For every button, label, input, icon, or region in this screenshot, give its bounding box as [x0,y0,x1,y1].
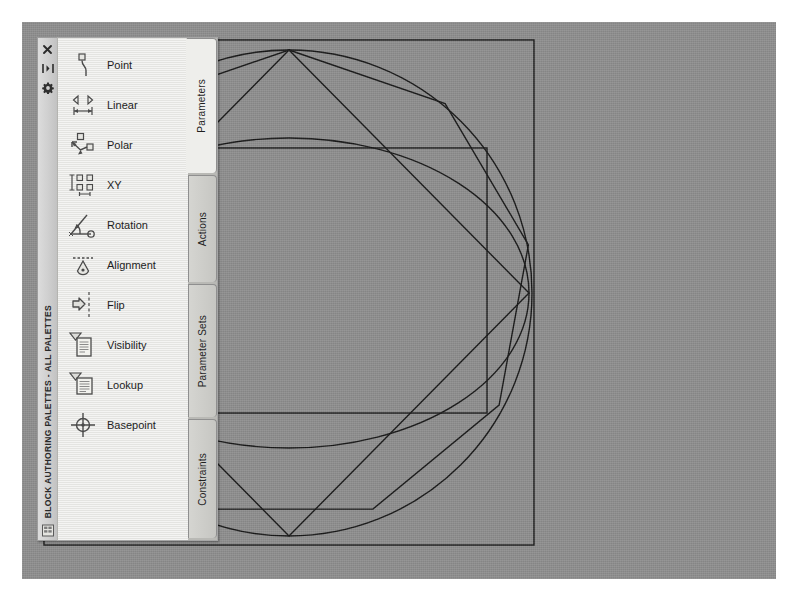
xy-parameter-icon [66,168,100,202]
polar-parameter-icon [66,128,100,162]
tool-label: Lookup [107,379,143,391]
parameters-tool-list: Point Linear [58,38,188,540]
tab-parameter-sets[interactable]: Parameter Sets [188,284,217,417]
tool-label: Flip [107,299,125,311]
rotation-parameter-icon [66,208,100,242]
tool-item-basepoint[interactable]: Basepoint [58,405,188,445]
tool-item-point[interactable]: Point [58,45,188,85]
tab-label: Parameter Sets [197,315,208,387]
tool-item-alignment[interactable]: Alignment [58,245,188,285]
tool-item-linear[interactable]: Linear [58,85,188,125]
alignment-parameter-icon [66,248,100,282]
flip-parameter-icon [66,288,100,322]
tab-constraints[interactable]: Constraints [188,419,217,538]
tab-label: Constraints [197,453,208,506]
tab-parameters[interactable]: Parameters [186,38,217,173]
palette-title: BLOCK AUTHORING PALETTES - ALL PALETTES [43,305,53,518]
tool-label: Alignment [107,259,156,271]
tool-item-flip[interactable]: Flip [58,285,188,325]
palette-tab-strip: Parameters Actions Parameter Sets Constr… [188,38,217,540]
tab-label: Parameters [196,79,207,133]
visibility-parameter-icon [66,328,100,362]
point-parameter-icon [66,48,100,82]
block-authoring-palettes-window[interactable]: BLOCK AUTHORING PALETTES - ALL PALETTES [37,37,218,541]
tool-label: Linear [107,99,138,111]
tool-label: Basepoint [107,419,156,431]
auto-hide-icon[interactable] [40,61,55,76]
properties-gear-icon[interactable] [40,80,55,95]
tool-item-lookup[interactable]: Lookup [58,365,188,405]
tool-item-xy[interactable]: XY [58,165,188,205]
tab-actions[interactable]: Actions [188,175,217,282]
tool-label: Visibility [107,339,147,351]
basepoint-parameter-icon [66,408,100,442]
palette-properties-icon[interactable] [41,523,54,536]
tool-item-polar[interactable]: Polar [58,125,188,165]
close-icon[interactable] [40,42,55,57]
palette-body: Point Linear [57,37,218,541]
linear-parameter-icon [66,88,100,122]
screenshot-root: BLOCK AUTHORING PALETTES - ALL PALETTES [0,0,796,605]
tool-label: Rotation [107,219,148,231]
tool-label: Polar [107,139,133,151]
tool-item-rotation[interactable]: Rotation [58,205,188,245]
tool-item-visibility[interactable]: Visibility [58,325,188,365]
lookup-parameter-icon [66,368,100,402]
tool-label: Point [107,59,132,71]
tab-label: Actions [197,212,208,246]
palette-titlebar[interactable]: BLOCK AUTHORING PALETTES - ALL PALETTES [37,37,57,541]
tool-label: XY [107,179,122,191]
